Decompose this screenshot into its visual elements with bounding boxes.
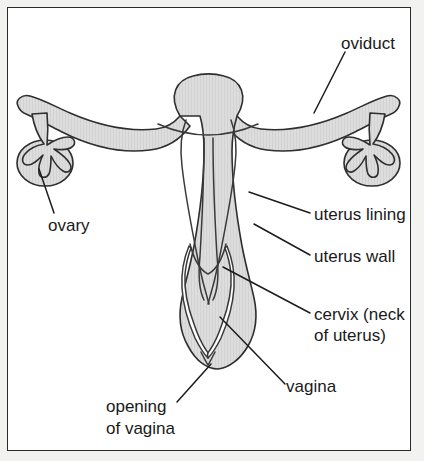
leader-oviduct	[314, 52, 345, 113]
label-opening-line2: of vagina	[106, 419, 176, 438]
label-opening-line1: opening	[106, 397, 167, 416]
leader-opening-of-vagina	[177, 364, 211, 402]
figure-frame: oviduct ovary uterus lining uterus wall …	[7, 7, 411, 451]
leader-uterus-wall	[254, 224, 310, 255]
label-uterus-wall: uterus wall	[314, 247, 395, 266]
label-ovary: ovary	[48, 216, 90, 235]
label-cervix-line2: of uterus)	[314, 326, 386, 345]
figure-root: oviduct ovary uterus lining uterus wall …	[0, 0, 424, 461]
label-uterus-lining: uterus lining	[314, 205, 406, 224]
leader-uterus-lining	[249, 192, 310, 213]
label-oviduct: oviduct	[341, 34, 395, 53]
label-vagina: vagina	[286, 377, 337, 396]
anatomy-diagram: oviduct ovary uterus lining uterus wall …	[8, 8, 409, 449]
label-cervix-line1: cervix (neck	[314, 305, 405, 324]
